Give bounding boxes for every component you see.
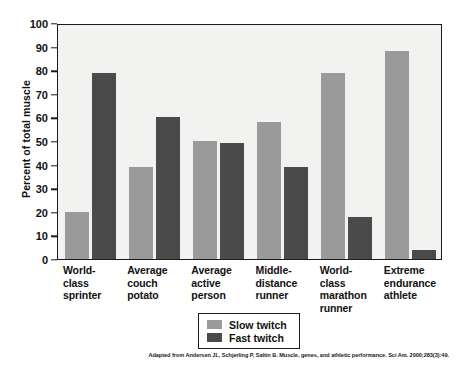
category-label-line: World- bbox=[320, 264, 380, 277]
category-label: Extremeenduranceathlete bbox=[384, 264, 444, 302]
source-note: Adapted from Andersen JL, Schjerling P, … bbox=[0, 352, 449, 358]
category-label-line: runner bbox=[320, 302, 380, 315]
y-tick-label: 20 bbox=[10, 207, 48, 219]
bar-slow-twitch bbox=[385, 51, 409, 259]
y-tick-label: 70 bbox=[10, 89, 48, 101]
category-label-line: Extreme bbox=[384, 264, 444, 277]
category-label-line: Average bbox=[127, 264, 187, 277]
category-label-line: class bbox=[320, 277, 380, 290]
category-label-line: athlete bbox=[384, 289, 444, 302]
plot-area bbox=[57, 24, 442, 260]
bar-fast-twitch bbox=[220, 143, 244, 259]
bar-fast-twitch bbox=[156, 117, 180, 259]
y-tick-label: 40 bbox=[10, 160, 48, 172]
y-tick-label: 60 bbox=[10, 112, 48, 124]
legend-swatch bbox=[207, 320, 222, 329]
legend-label: Fast twitch bbox=[229, 332, 284, 344]
bar-fast-twitch bbox=[348, 217, 372, 259]
category-label-line: marathon bbox=[320, 289, 380, 302]
category-label: World-classmarathonrunner bbox=[320, 264, 380, 314]
category-label-line: active bbox=[191, 277, 251, 290]
category-label-line: potato bbox=[127, 289, 187, 302]
legend-item: Fast twitch bbox=[207, 331, 287, 344]
y-tick-label: 90 bbox=[10, 42, 48, 54]
category-label: Averagecouchpotato bbox=[127, 264, 187, 302]
legend-label: Slow twitch bbox=[229, 319, 287, 331]
category-label: World-classsprinter bbox=[63, 264, 123, 302]
y-tick-label: 50 bbox=[10, 136, 48, 148]
y-tick-label: 0 bbox=[10, 254, 48, 266]
bar-fast-twitch bbox=[412, 250, 436, 259]
muscle-fiber-bar-chart: Percent of total muscle 0102030405060708… bbox=[0, 0, 455, 370]
category-label-line: Middle- bbox=[256, 264, 316, 277]
category-label-line: person bbox=[191, 289, 251, 302]
category-label-line: World- bbox=[63, 264, 123, 277]
bar-slow-twitch bbox=[321, 73, 345, 259]
category-label-line: runner bbox=[256, 289, 316, 302]
category-label-line: class bbox=[63, 277, 123, 290]
legend-swatch bbox=[207, 333, 222, 342]
legend-item: Slow twitch bbox=[207, 318, 287, 331]
bar-slow-twitch bbox=[65, 212, 89, 259]
y-tick-label: 30 bbox=[10, 183, 48, 195]
category-label: Averageactiveperson bbox=[191, 264, 251, 302]
category-label: Middle-distancerunner bbox=[256, 264, 316, 302]
bar-slow-twitch bbox=[193, 141, 217, 259]
bar-slow-twitch bbox=[257, 122, 281, 259]
category-label-line: distance bbox=[256, 277, 316, 290]
category-label-line: Average bbox=[191, 264, 251, 277]
chart-legend: Slow twitchFast twitch bbox=[198, 313, 300, 349]
y-tick-label: 10 bbox=[10, 230, 48, 242]
y-tick-label: 80 bbox=[10, 65, 48, 77]
bar-slow-twitch bbox=[129, 167, 153, 259]
y-tick-label: 100 bbox=[10, 18, 48, 30]
category-label-line: endurance bbox=[384, 277, 444, 290]
category-label-line: couch bbox=[127, 277, 187, 290]
bar-fast-twitch bbox=[284, 167, 308, 259]
category-label-line: sprinter bbox=[63, 289, 123, 302]
bar-fast-twitch bbox=[92, 73, 116, 259]
